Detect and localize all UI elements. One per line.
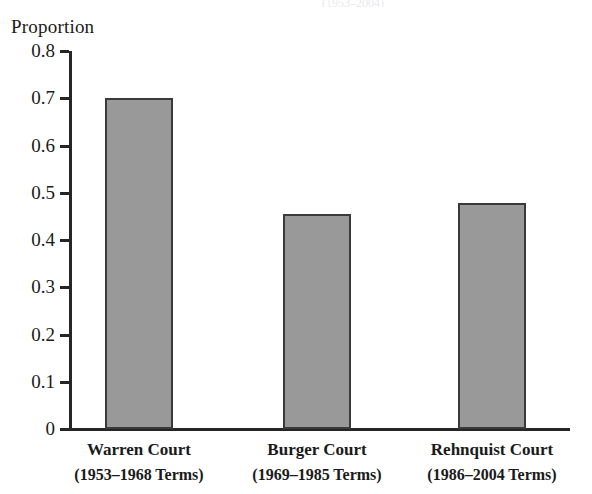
clipped-top-caption: (1953–2004) — [258, 0, 448, 7]
x-axis-category-label: Rehnquist Court(1986–2004 Terms) — [382, 437, 592, 487]
y-axis-tick-mark — [60, 145, 69, 148]
y-axis-tick-mark — [60, 334, 69, 337]
y-axis-tick-label: 0.4 — [31, 228, 55, 252]
y-axis-tick-mark — [60, 97, 69, 100]
y-axis-tick-label: 0.8 — [31, 39, 55, 63]
y-axis-tick-label: 0.3 — [31, 275, 55, 299]
y-axis-tick-label: 0.2 — [31, 323, 55, 347]
y-axis-tick-mark — [60, 381, 69, 384]
bar-chart-figure: (1953–2004) Proportion 0.80.70.60.50.40.… — [0, 0, 592, 494]
y-axis-title: Proportion — [11, 15, 94, 39]
bar — [458, 203, 526, 429]
y-axis-tick-mark — [60, 192, 69, 195]
y-axis-tick-label: 0.7 — [31, 86, 55, 110]
category-name: Warren Court — [87, 440, 191, 459]
y-axis-line — [69, 51, 72, 430]
y-axis-tick-mark — [60, 428, 69, 431]
y-axis-tick-mark — [60, 50, 69, 53]
y-axis-tick-label: 0.1 — [31, 370, 55, 394]
category-term-range: (1986–2004 Terms) — [382, 462, 592, 487]
category-name: Rehnquist Court — [431, 440, 553, 459]
bar — [105, 98, 173, 429]
bar — [283, 214, 351, 429]
y-axis-tick-label: 0.5 — [31, 181, 55, 205]
y-axis-tick-mark — [60, 286, 69, 289]
y-axis-tick-mark — [60, 239, 69, 242]
y-axis-tick-label: 0.6 — [31, 134, 55, 158]
category-name: Burger Court — [267, 440, 366, 459]
